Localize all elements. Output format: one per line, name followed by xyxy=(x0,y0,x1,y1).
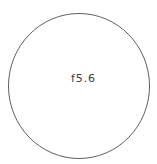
aperture-diagram: f5.6 xyxy=(0,0,157,164)
aperture-value-label: f5.6 xyxy=(5,72,157,85)
circle-outline xyxy=(9,14,150,159)
